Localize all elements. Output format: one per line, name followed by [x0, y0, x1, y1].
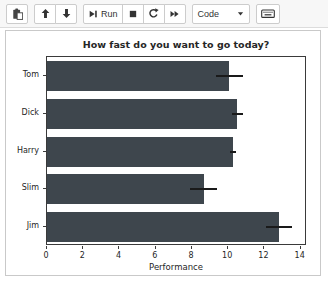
arrow-down-icon: [61, 8, 72, 19]
x-tick-label-14: 14: [290, 251, 310, 260]
y-tick-label-slim: Slim: [6, 183, 39, 193]
move-cell-down-button[interactable]: [55, 4, 77, 24]
x-tick-label-10: 10: [217, 251, 237, 260]
x-tick: [227, 246, 228, 249]
cell-type-value: Code: [198, 9, 220, 19]
x-tick-label-8: 8: [181, 251, 201, 260]
x-tick: [46, 246, 47, 249]
arrow-up-icon: [40, 8, 51, 19]
axes: [46, 56, 306, 245]
x-axis-label: Performance: [46, 262, 306, 272]
bar-slim: [47, 174, 204, 204]
x-tick-label-0: 0: [36, 251, 56, 260]
clipboard-icon: [12, 8, 23, 20]
y-tick: [43, 188, 46, 189]
x-tick-label-6: 6: [145, 251, 165, 260]
bar-dick: [47, 99, 237, 129]
error-bar-dick: [232, 113, 243, 115]
restart-icon: [148, 8, 159, 19]
command-palette-group: [256, 4, 280, 24]
x-tick: [155, 246, 156, 249]
cell-type-dropdown[interactable]: Code: [192, 4, 250, 24]
fast-forward-icon: [169, 9, 180, 19]
paste-group: [6, 4, 28, 24]
move-cell-group: [34, 4, 77, 24]
y-tick: [43, 151, 46, 152]
x-tick: [263, 246, 264, 249]
y-tick-label-tom: Tom: [6, 70, 39, 80]
x-tick-label-2: 2: [72, 251, 92, 260]
error-bar-harry: [230, 151, 236, 153]
x-tick: [191, 246, 192, 249]
command-palette-button[interactable]: [256, 4, 280, 24]
run-button[interactable]: Run: [83, 4, 123, 24]
bar-tom: [47, 61, 229, 91]
y-tick-label-harry: Harry: [6, 146, 39, 156]
y-tick-label-jim: Jim: [6, 221, 39, 231]
x-tick: [300, 246, 301, 249]
error-bar-jim: [266, 226, 291, 228]
stop-icon: [128, 9, 138, 19]
x-tick: [118, 246, 119, 249]
x-tick-label-12: 12: [253, 251, 273, 260]
chart-title: How fast do you want to go today?: [46, 39, 306, 50]
restart-run-all-button[interactable]: [164, 4, 186, 24]
error-bar-tom: [216, 75, 243, 77]
move-cell-up-button[interactable]: [34, 4, 56, 24]
restart-kernel-button[interactable]: [143, 4, 165, 24]
y-tick: [43, 75, 46, 76]
bar-jim: [47, 212, 279, 242]
x-tick: [82, 246, 83, 249]
bar-harry: [47, 137, 233, 167]
caret-down-icon: [237, 10, 244, 17]
run-button-label: Run: [101, 9, 118, 19]
step-forward-icon: [88, 9, 98, 19]
kernel-actions-group: Run: [83, 4, 186, 24]
x-tick-label-4: 4: [108, 251, 128, 260]
y-tick: [43, 226, 46, 227]
error-bar-slim: [190, 188, 217, 190]
figure-output: How fast do you want to go today? Perfor…: [5, 30, 321, 276]
notebook-toolbar: Run: [0, 0, 328, 28]
y-tick-label-dick: Dick: [6, 108, 39, 118]
y-tick: [43, 113, 46, 114]
keyboard-icon: [261, 8, 275, 19]
paste-button[interactable]: [6, 4, 28, 24]
interrupt-kernel-button[interactable]: [122, 4, 144, 24]
